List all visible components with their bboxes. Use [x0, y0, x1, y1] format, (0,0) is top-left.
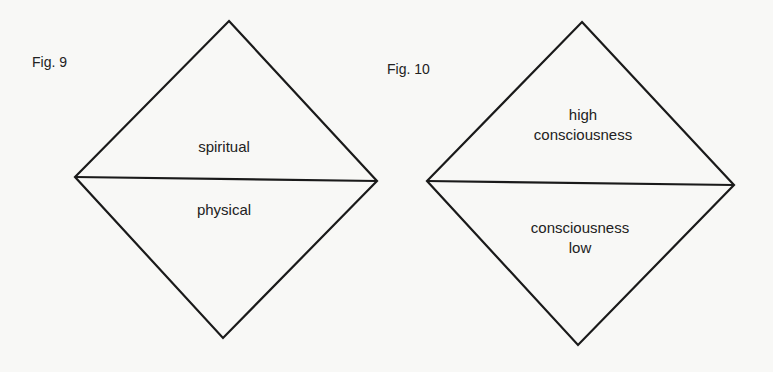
fig9-lower-label: physical	[197, 200, 251, 220]
fig10-lower-label: consciousness low	[531, 218, 629, 258]
fig9-upper-label: spiritual	[198, 137, 250, 157]
fig10-upper-label-line1: high	[534, 105, 632, 125]
fig10-lower-label-line2: low	[531, 238, 629, 258]
fig9-diamond	[75, 21, 377, 338]
diagram-page: Fig. 9 spiritual physical Fig. 10 high c…	[0, 0, 773, 372]
fig10-upper-label: high consciousness	[534, 105, 632, 145]
fig9-caption: Fig. 9	[32, 54, 67, 70]
fig10-lower-label-line1: consciousness	[531, 218, 629, 238]
diagram-canvas	[0, 0, 773, 372]
fig9-divider-line	[75, 177, 377, 181]
fig10-caption: Fig. 10	[387, 61, 430, 77]
fig10-upper-label-line2: consciousness	[534, 125, 632, 145]
fig10-diamond	[427, 22, 734, 345]
fig10-divider-line	[427, 181, 734, 185]
